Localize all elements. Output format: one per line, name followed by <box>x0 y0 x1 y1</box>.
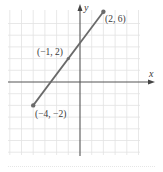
y-axis-label: y <box>83 2 89 13</box>
y-axis-arrow-icon <box>78 4 83 11</box>
footer-divider <box>8 166 155 167</box>
coordinate-plane: x y (2, 6) (−1, 2) (−4, −2) <box>0 0 163 172</box>
point-midpoint <box>67 57 70 60</box>
x-axis-label: x <box>148 68 154 79</box>
x-axis-arrow-icon <box>148 80 155 85</box>
label-point-neg1-2: (−1, 2) <box>37 47 63 58</box>
label-point-2-6: (2, 6) <box>105 14 126 25</box>
label-point-neg4-neg2: (−4, −2) <box>35 109 66 120</box>
point-endpoint-a <box>31 103 35 107</box>
